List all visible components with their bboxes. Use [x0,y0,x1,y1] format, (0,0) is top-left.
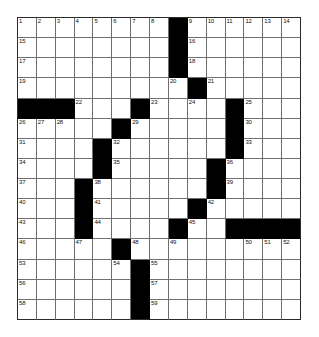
grid-letter-cell[interactable]: 20 [169,78,188,98]
grid-letter-cell[interactable]: 41 [93,199,112,219]
grid-letter-cell[interactable] [56,239,75,259]
grid-letter-cell[interactable]: 16 [188,38,207,58]
grid-letter-cell[interactable]: 12 [244,18,263,38]
grid-letter-cell[interactable]: 15 [18,38,37,58]
grid-letter-cell[interactable]: 26 [18,119,37,139]
grid-letter-cell[interactable] [112,78,131,98]
grid-letter-cell[interactable] [75,139,94,159]
grid-letter-cell[interactable] [169,139,188,159]
grid-letter-cell[interactable]: 32 [112,139,131,159]
grid-letter-cell[interactable]: 24 [188,99,207,119]
grid-letter-cell[interactable] [263,78,282,98]
grid-letter-cell[interactable] [207,119,226,139]
grid-letter-cell[interactable] [282,58,301,78]
grid-letter-cell[interactable] [75,38,94,58]
grid-letter-cell[interactable]: 36 [226,159,245,179]
grid-letter-cell[interactable]: 49 [169,239,188,259]
grid-letter-cell[interactable]: 50 [244,239,263,259]
grid-letter-cell[interactable] [131,159,150,179]
grid-letter-cell[interactable] [244,78,263,98]
grid-letter-cell[interactable] [150,119,169,139]
grid-letter-cell[interactable] [112,219,131,239]
grid-letter-cell[interactable] [226,199,245,219]
grid-letter-cell[interactable] [93,38,112,58]
grid-letter-cell[interactable] [150,38,169,58]
grid-letter-cell[interactable] [188,139,207,159]
grid-letter-cell[interactable] [282,139,301,159]
grid-letter-cell[interactable] [188,260,207,280]
grid-letter-cell[interactable]: 8 [150,18,169,38]
grid-letter-cell[interactable]: 58 [18,300,37,320]
grid-letter-cell[interactable] [131,38,150,58]
grid-letter-cell[interactable]: 42 [207,199,226,219]
grid-letter-cell[interactable]: 48 [131,239,150,259]
grid-letter-cell[interactable]: 34 [18,159,37,179]
grid-letter-cell[interactable]: 52 [282,239,301,259]
grid-letter-cell[interactable] [282,119,301,139]
grid-letter-cell[interactable]: 13 [263,18,282,38]
grid-letter-cell[interactable] [226,280,245,300]
grid-letter-cell[interactable] [169,119,188,139]
grid-letter-cell[interactable] [93,260,112,280]
grid-letter-cell[interactable]: 38 [93,179,112,199]
grid-letter-cell[interactable]: 55 [150,260,169,280]
grid-letter-cell[interactable] [207,99,226,119]
grid-letter-cell[interactable] [150,219,169,239]
grid-letter-cell[interactable] [244,58,263,78]
grid-letter-cell[interactable]: 31 [18,139,37,159]
grid-letter-cell[interactable] [263,99,282,119]
grid-letter-cell[interactable]: 10 [207,18,226,38]
grid-letter-cell[interactable]: 2 [37,18,56,38]
grid-letter-cell[interactable] [188,159,207,179]
grid-letter-cell[interactable] [244,179,263,199]
grid-letter-cell[interactable] [207,58,226,78]
grid-letter-cell[interactable] [37,219,56,239]
grid-letter-cell[interactable] [169,99,188,119]
grid-letter-cell[interactable] [226,239,245,259]
grid-letter-cell[interactable]: 43 [18,219,37,239]
grid-letter-cell[interactable] [37,300,56,320]
grid-letter-cell[interactable] [263,300,282,320]
grid-letter-cell[interactable] [131,179,150,199]
grid-letter-cell[interactable] [150,179,169,199]
grid-letter-cell[interactable] [207,239,226,259]
grid-letter-cell[interactable] [263,58,282,78]
grid-letter-cell[interactable]: 45 [188,219,207,239]
grid-letter-cell[interactable] [263,38,282,58]
grid-letter-cell[interactable] [150,159,169,179]
grid-letter-cell[interactable] [244,280,263,300]
grid-letter-cell[interactable] [150,199,169,219]
grid-letter-cell[interactable] [169,300,188,320]
grid-letter-cell[interactable] [207,139,226,159]
grid-letter-cell[interactable] [282,260,301,280]
grid-letter-cell[interactable] [244,159,263,179]
grid-letter-cell[interactable] [75,260,94,280]
grid-letter-cell[interactable] [75,300,94,320]
grid-letter-cell[interactable] [37,280,56,300]
grid-letter-cell[interactable] [188,300,207,320]
grid-letter-cell[interactable] [282,300,301,320]
grid-letter-cell[interactable] [263,139,282,159]
grid-letter-cell[interactable] [244,300,263,320]
grid-letter-cell[interactable] [37,239,56,259]
grid-letter-cell[interactable] [75,58,94,78]
grid-letter-cell[interactable] [37,58,56,78]
grid-letter-cell[interactable]: 57 [150,280,169,300]
grid-letter-cell[interactable]: 35 [112,159,131,179]
grid-letter-cell[interactable] [244,199,263,219]
grid-letter-cell[interactable]: 53 [18,260,37,280]
grid-letter-cell[interactable] [37,199,56,219]
grid-letter-cell[interactable]: 54 [112,260,131,280]
grid-letter-cell[interactable] [263,199,282,219]
grid-letter-cell[interactable]: 23 [150,99,169,119]
grid-letter-cell[interactable] [56,139,75,159]
grid-letter-cell[interactable]: 18 [188,58,207,78]
grid-letter-cell[interactable] [93,78,112,98]
grid-letter-cell[interactable]: 33 [244,139,263,159]
grid-letter-cell[interactable] [263,179,282,199]
grid-letter-cell[interactable] [93,300,112,320]
grid-letter-cell[interactable]: 4 [75,18,94,38]
grid-letter-cell[interactable]: 17 [18,58,37,78]
grid-letter-cell[interactable] [131,58,150,78]
grid-letter-cell[interactable] [56,260,75,280]
